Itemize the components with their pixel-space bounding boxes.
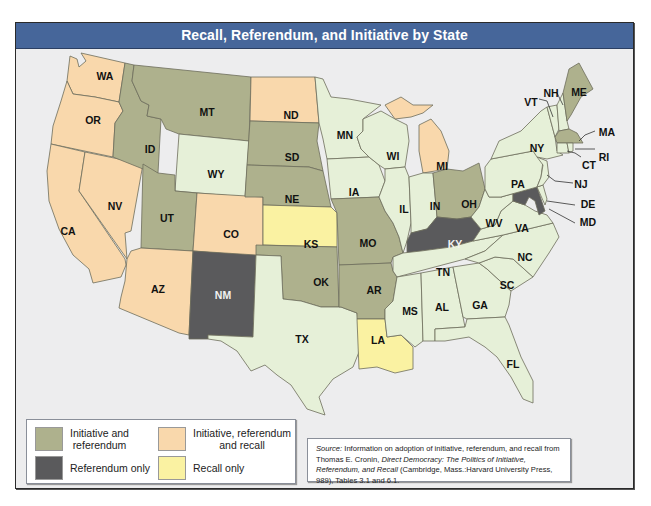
leader-de <box>547 201 575 205</box>
label-pa: PA <box>511 178 525 190</box>
map-legend: Initiative andreferendum Initiative, ref… <box>26 419 296 484</box>
state-ma <box>555 129 583 143</box>
label-tn: TN <box>436 266 450 278</box>
label-wv: WV <box>486 217 503 229</box>
legend-label: Referendum only <box>70 462 150 474</box>
label-ms: MS <box>402 305 418 317</box>
label-ne: NE <box>285 193 300 205</box>
label-ks: KS <box>304 238 319 250</box>
label-ri: RI <box>599 151 610 163</box>
label-wa: WA <box>97 70 114 82</box>
label-oh: OH <box>461 198 477 210</box>
state-ks <box>263 205 337 247</box>
label-ga: GA <box>472 299 488 311</box>
label-la: LA <box>371 334 385 346</box>
legend-label: Initiative and <box>70 427 129 439</box>
map-figure: Recall, Referendum, and Initiative by St… <box>15 22 634 489</box>
source-note: Source: Information on adoption of initi… <box>307 438 571 482</box>
legend-swatch <box>35 456 63 480</box>
label-ny: NY <box>530 142 545 154</box>
legend-swatch <box>35 427 63 451</box>
label-ky: KY <box>448 238 463 250</box>
label-in: IN <box>430 200 441 212</box>
label-nv: NV <box>108 200 123 212</box>
leader-ct <box>567 151 581 157</box>
legend-swatch <box>158 456 186 480</box>
label-mi: MI <box>436 160 448 172</box>
state-wy <box>175 134 249 197</box>
legend-item-recall-only: Recall only <box>158 456 244 480</box>
label-al: AL <box>435 301 450 313</box>
leader-nj <box>547 175 573 183</box>
legend-label: Recall only <box>193 462 244 474</box>
label-mt: MT <box>199 106 215 118</box>
state-sd <box>247 121 323 171</box>
label-co: CO <box>223 228 239 240</box>
state-co <box>193 193 263 257</box>
label-wi: WI <box>387 150 400 162</box>
label-nj: NJ <box>574 178 588 190</box>
label-nh: NH <box>543 87 558 99</box>
label-fl: FL <box>507 358 520 370</box>
leader-ma <box>579 131 595 141</box>
label-ar: AR <box>366 284 382 296</box>
label-ct: CT <box>582 159 597 171</box>
label-il: IL <box>399 203 409 215</box>
label-ia: IA <box>349 186 360 198</box>
label-tx: TX <box>295 333 308 345</box>
label-nc: NC <box>517 251 533 263</box>
legend-label: Initiative, referendum <box>193 427 291 439</box>
label-mn: MN <box>337 129 353 141</box>
legend-item-initiative-referendum: Initiative andreferendum <box>35 427 129 451</box>
label-mo: MO <box>360 237 377 249</box>
label-me: ME <box>571 86 587 98</box>
leader-md <box>549 209 575 223</box>
legend-item-referendum-only: Referendum only <box>35 456 150 480</box>
legend-swatch <box>158 427 186 451</box>
label-ca: CA <box>60 225 76 237</box>
label-ma: MA <box>599 126 616 138</box>
label-az: AZ <box>151 283 166 295</box>
label-va: VA <box>515 222 529 234</box>
label-de: DE <box>581 198 596 210</box>
source-label: Source: <box>316 444 342 453</box>
label-sd: SD <box>285 151 300 163</box>
label-vt: VT <box>524 96 538 108</box>
legend-item-initiative-referendum-recall: Initiative, referendumand recall <box>158 427 291 451</box>
label-nm: NM <box>215 289 232 301</box>
label-sc: SC <box>500 279 515 291</box>
label-ok: OK <box>313 276 329 288</box>
label-nd: ND <box>283 109 299 121</box>
label-id: ID <box>145 143 156 155</box>
label-md: MD <box>580 216 597 228</box>
label-wy: WY <box>208 168 225 180</box>
label-or: OR <box>85 114 101 126</box>
label-ut: UT <box>160 212 175 224</box>
